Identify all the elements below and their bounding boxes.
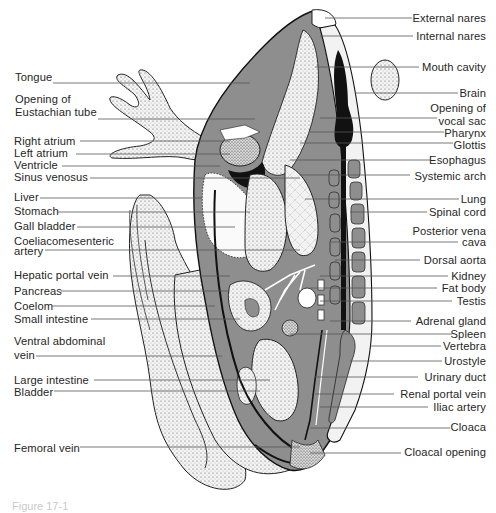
label-opening-of-eustachian-2: Eustachian tube	[15, 106, 97, 118]
label-spleen: Spleen	[451, 328, 486, 340]
label-pharynx: Pharynx	[444, 127, 486, 139]
label-brain: Brain	[459, 87, 486, 99]
label-esophagus: Esophagus	[429, 154, 486, 166]
label-cloaca: Cloaca	[451, 421, 486, 433]
label-adrenal-gland: Adrenal gland	[416, 315, 486, 327]
label-large-intestine: Large intestine	[14, 374, 89, 386]
label-systemic-arch: Systemic arch	[414, 170, 486, 182]
label-dorsal-aorta: Dorsal aorta	[424, 254, 486, 266]
label-mouth-cavity: Mouth cavity	[422, 61, 486, 73]
label-fat-body: Fat body	[442, 282, 486, 294]
label-iliac-artery: Iliac artery	[433, 401, 486, 413]
label-cloacal-opening: Cloacal opening	[404, 446, 486, 458]
spinal-cord	[341, 140, 346, 330]
label-ventricle: Ventricle	[14, 159, 58, 171]
label-coelom: Coelom	[14, 300, 53, 312]
label-glottis: Glottis	[454, 139, 486, 151]
bladder	[237, 367, 256, 404]
label-coeliacomesenteric-2: artery	[14, 245, 43, 257]
label-spinal-cord: Spinal cord	[429, 206, 486, 218]
figure-caption: Figure 17-1	[12, 500, 68, 512]
label-testis: Testis	[457, 295, 486, 307]
label-pancreas: Pancreas	[14, 285, 62, 297]
label-external-nares: External nares	[412, 12, 486, 24]
label-stomach: Stomach	[14, 205, 59, 217]
label-hepatic-portal-vein: Hepatic portal vein	[14, 269, 109, 281]
label-femoral-vein: Femoral vein	[14, 442, 80, 454]
label-vertebra: Vertebra	[443, 340, 486, 352]
label-internal-nares: Internal nares	[416, 30, 486, 42]
label-tongue: Tongue	[15, 71, 52, 83]
label-gall-bladder: Gall bladder	[14, 220, 76, 232]
label-small-intestine: Small intestine	[14, 313, 88, 325]
fat-body	[298, 288, 316, 308]
label-ventral-abdominal-1: Ventral abdominal	[14, 335, 105, 347]
label-left-atrium: Left atrium	[14, 147, 68, 159]
label-urinary-duct: Urinary duct	[424, 371, 486, 383]
label-sinus-venosus: Sinus venosus	[14, 171, 88, 183]
label-opening-vocal-sac-1: Opening of	[430, 102, 486, 114]
label-liver: Liver	[14, 191, 39, 203]
label-ventral-abdominal-2: vein	[14, 349, 35, 361]
label-kidney: Kidney	[451, 270, 486, 282]
label-urostyle: Urostyle	[444, 355, 486, 367]
label-opening-vocal-sac-2: vocal sac	[438, 115, 486, 127]
label-lung: Lung	[461, 193, 486, 205]
label-opening-of-eustachian-1: Opening of	[15, 93, 71, 105]
label-right-atrium: Right atrium	[14, 135, 76, 147]
label-posterior-vena-cava-2: cava	[462, 236, 486, 248]
label-bladder: Bladder	[14, 386, 53, 398]
label-renal-portal-vein: Renal portal vein	[400, 388, 486, 400]
